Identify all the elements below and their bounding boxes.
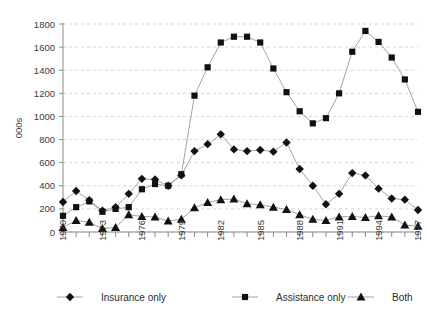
x-tick-label: 1985 bbox=[255, 220, 266, 241]
x-tick-label: 1976 bbox=[136, 220, 147, 241]
legend-label: Assistance only bbox=[276, 292, 345, 303]
marker-triangle bbox=[357, 293, 366, 301]
x-tick-label: 1991 bbox=[334, 220, 345, 241]
marker-square bbox=[99, 209, 105, 215]
chart-legend: Insurance onlyAssistance onlyBoth bbox=[57, 292, 413, 303]
gridlines-group bbox=[63, 24, 418, 232]
marker-diamond bbox=[414, 206, 422, 214]
marker-square bbox=[415, 109, 421, 115]
marker-square bbox=[244, 34, 250, 40]
line-chart: 020040060080010001200140016001800 197019… bbox=[0, 0, 427, 317]
data-series-group bbox=[59, 28, 423, 232]
marker-diamond bbox=[269, 148, 277, 156]
marker-square bbox=[165, 183, 171, 189]
x-tick-label: 1988 bbox=[294, 220, 305, 241]
y-tick-label: 600 bbox=[39, 157, 55, 168]
y-tick-label: 1400 bbox=[34, 65, 55, 76]
marker-square bbox=[218, 39, 224, 45]
marker-square bbox=[375, 39, 381, 45]
marker-square bbox=[310, 120, 316, 126]
marker-triangle bbox=[243, 199, 252, 207]
marker-square bbox=[402, 76, 408, 82]
marker-square bbox=[270, 65, 276, 71]
x-tick-label: 1982 bbox=[215, 220, 226, 241]
marker-diamond bbox=[309, 182, 317, 190]
marker-square bbox=[73, 204, 79, 210]
marker-square bbox=[86, 198, 92, 204]
marker-square bbox=[362, 28, 368, 34]
marker-diamond bbox=[388, 194, 396, 202]
series-assistance-only bbox=[60, 28, 421, 219]
marker-square bbox=[349, 49, 355, 55]
x-tick-label: 1994 bbox=[373, 220, 384, 241]
marker-triangle bbox=[374, 211, 383, 219]
marker-square bbox=[152, 181, 158, 187]
marker-triangle bbox=[400, 221, 409, 229]
marker-square bbox=[242, 294, 248, 300]
x-tick-label: 1979 bbox=[176, 220, 187, 241]
y-tick-label: 0 bbox=[50, 227, 55, 238]
marker-triangle bbox=[308, 215, 317, 223]
y-axis-tick-labels: 020040060080010001200140016001800 bbox=[34, 19, 55, 238]
marker-diamond bbox=[256, 146, 264, 154]
marker-diamond bbox=[335, 190, 343, 198]
marker-triangle bbox=[72, 216, 81, 224]
y-tick-label: 1600 bbox=[34, 42, 55, 53]
x-tick-label: 1997 bbox=[412, 220, 423, 241]
series-both bbox=[59, 195, 423, 232]
y-tick-label: 800 bbox=[39, 134, 55, 145]
y-tick-label: 400 bbox=[39, 180, 55, 191]
series-insurance-only bbox=[59, 130, 422, 215]
legend-item-insurance-only: Insurance only bbox=[57, 292, 166, 303]
marker-diamond bbox=[322, 200, 330, 208]
x-tick-label: 1973 bbox=[97, 220, 108, 241]
marker-diamond bbox=[243, 147, 251, 155]
marker-diamond bbox=[203, 140, 211, 148]
y-tick-label: 200 bbox=[39, 203, 55, 214]
chart-container: 020040060080010001200140016001800 197019… bbox=[0, 0, 427, 317]
marker-square bbox=[139, 186, 145, 192]
marker-diamond bbox=[401, 195, 409, 203]
y-axis-title: 000s bbox=[13, 117, 24, 138]
y-tick-label: 1200 bbox=[34, 88, 55, 99]
marker-diamond bbox=[190, 147, 198, 155]
y-tick-label: 1000 bbox=[34, 111, 55, 122]
marker-square bbox=[257, 39, 263, 45]
marker-square bbox=[389, 54, 395, 60]
series-line bbox=[63, 31, 418, 216]
marker-square bbox=[112, 206, 118, 212]
marker-diamond bbox=[348, 169, 356, 177]
marker-square bbox=[297, 108, 303, 114]
legend-label: Both bbox=[392, 292, 413, 303]
marker-square bbox=[205, 64, 211, 70]
y-axis-title-text: 000s bbox=[13, 117, 24, 138]
legend-item-both: Both bbox=[348, 292, 413, 303]
y-tick-label: 1800 bbox=[34, 19, 55, 30]
marker-diamond bbox=[66, 293, 74, 301]
marker-square bbox=[191, 93, 197, 99]
marker-square bbox=[60, 213, 66, 219]
marker-triangle bbox=[348, 212, 357, 220]
axes-group bbox=[59, 23, 418, 237]
marker-triangle bbox=[190, 203, 199, 211]
marker-square bbox=[126, 204, 132, 210]
marker-square bbox=[323, 115, 329, 121]
marker-square bbox=[336, 90, 342, 96]
legend-item-assistance-only: Assistance only bbox=[232, 292, 345, 303]
marker-diamond bbox=[282, 138, 290, 146]
marker-square bbox=[178, 171, 184, 177]
legend-label: Insurance only bbox=[101, 292, 166, 303]
marker-triangle bbox=[295, 210, 304, 218]
marker-square bbox=[231, 34, 237, 40]
x-tick-label: 1970 bbox=[57, 220, 68, 241]
marker-triangle bbox=[229, 195, 238, 203]
marker-square bbox=[283, 89, 289, 95]
marker-triangle bbox=[124, 210, 133, 218]
marker-diamond bbox=[295, 165, 303, 173]
